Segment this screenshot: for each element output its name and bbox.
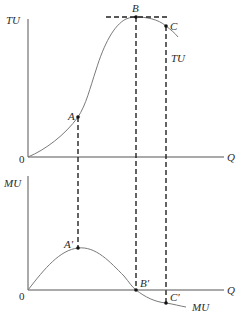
marginal-utility-panel: MU Q 0 MU A′ B′ C′: [3, 176, 235, 313]
point-c-prime: [164, 301, 168, 305]
tu-curve-label: TU: [171, 52, 186, 64]
point-b-prime: [134, 288, 138, 292]
point-a: [76, 115, 80, 119]
utility-diagram: TU Q 0 TU A B C MU Q 0 MU A′ B′ C′: [0, 0, 245, 320]
point-b-label: B: [132, 2, 139, 14]
mu-x-axis-label: Q: [227, 284, 235, 296]
mu-origin-label: 0: [19, 290, 25, 302]
point-c-label: C: [170, 20, 178, 32]
mu-curve-label: MU: [191, 301, 210, 313]
tu-curve: [28, 17, 178, 157]
point-a-label: A: [67, 110, 75, 122]
mu-curve: [28, 248, 186, 307]
point-b-prime-label: B′: [140, 277, 150, 289]
point-c-prime-label: C′: [170, 291, 180, 303]
mu-y-axis-label: MU: [3, 177, 22, 189]
total-utility-panel: TU Q 0 TU A B C: [6, 2, 235, 165]
tu-origin-label: 0: [19, 153, 25, 165]
point-b: [134, 15, 138, 19]
point-a-prime: [76, 246, 80, 250]
points: [76, 15, 168, 305]
dashed-connectors: [78, 17, 166, 303]
point-c: [164, 24, 168, 28]
tu-y-axis-label: TU: [6, 14, 21, 26]
point-a-prime-label: A′: [63, 238, 74, 250]
tu-x-axis-label: Q: [227, 151, 235, 163]
